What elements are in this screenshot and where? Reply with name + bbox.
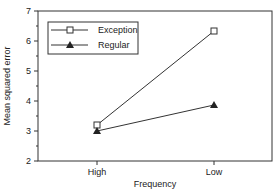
chart-canvas: 7 6 5 4 3 2 High Low Frequency Mean squa… [0, 0, 278, 191]
y-tick-2: 2 [26, 156, 31, 166]
legend-label-exception: Exception [98, 25, 138, 35]
y-tick-6: 6 [26, 36, 31, 46]
y-tick-7: 7 [26, 6, 31, 16]
y-tick-5: 5 [26, 66, 31, 76]
legend: Exception Regular [48, 22, 138, 54]
legend-square-icon [67, 27, 73, 33]
regular-marker-low [210, 101, 218, 108]
x-tick-high: High [88, 167, 107, 177]
series-regular [93, 101, 218, 134]
y-tick-3: 3 [26, 126, 31, 136]
exception-marker-low [211, 28, 217, 34]
y-tick-4: 4 [26, 96, 31, 106]
x-axis-title: Frequency [134, 179, 177, 189]
x-tick-low: Low [206, 167, 223, 177]
x-axis-ticks [97, 161, 214, 165]
legend-label-regular: Regular [98, 40, 130, 50]
y-axis-ticks [34, 11, 38, 161]
y-axis-title: Mean squared error [2, 46, 12, 125]
